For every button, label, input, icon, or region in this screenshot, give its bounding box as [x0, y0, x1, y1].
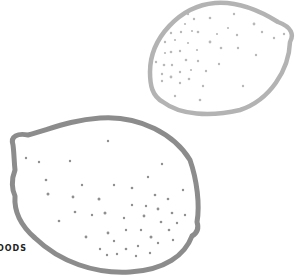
top-lemon: [150, 3, 292, 114]
bottom-lemon: [12, 118, 198, 273]
caption-text: OODS: [0, 244, 27, 253]
lemons-illustration: [0, 0, 297, 277]
